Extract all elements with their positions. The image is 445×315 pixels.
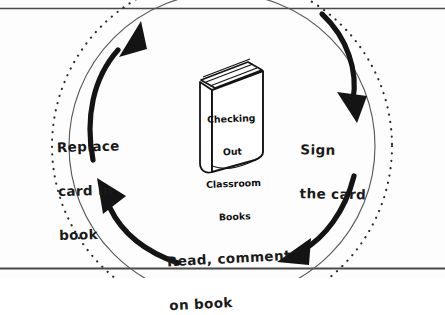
step-label-replace-line-3: book: [59, 225, 145, 242]
arrow-top-left-head: [119, 21, 147, 57]
step-label-read-line-1: Read, comment: [167, 248, 298, 269]
step-label-replace-line-1: Replace: [57, 138, 143, 155]
step-label-read-line-2: on book: [169, 291, 300, 312]
step-label-read-comment-on-book: Read, comment on book: [165, 219, 301, 315]
step-label-sign-line-2: the card: [299, 186, 391, 202]
step-label-replace-line-2: card in: [58, 182, 144, 199]
step-label-replace-card-in-book: Replace card in book: [56, 109, 146, 272]
book-title-line-3: Classroom: [204, 178, 262, 191]
arrow-right-shaft: [322, 14, 354, 100]
book-title-line-1: Checking: [202, 113, 260, 126]
step-label-sign-the-card: Sign the card: [299, 113, 393, 231]
step-label-sign-line-1: Sign: [300, 142, 392, 158]
arrow-right: [322, 14, 367, 123]
book-title-line-2: Out: [203, 146, 261, 159]
